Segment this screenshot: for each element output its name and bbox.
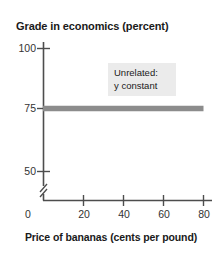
x-tick-label-20: 20 xyxy=(69,208,99,220)
y-tick-label-100: 100 xyxy=(8,42,36,54)
annotation-line-2: y constant xyxy=(114,79,171,92)
annotation-line-1: Unrelated: xyxy=(114,66,171,79)
x-tick-label-0: 0 xyxy=(13,208,43,220)
annotation-callout: Unrelated: y constant xyxy=(108,63,176,96)
y-tick-label-50: 50 xyxy=(8,165,36,177)
x-axis-title: Price of bananas (cents per pound) xyxy=(0,231,222,243)
y-tick-label-75: 75 xyxy=(8,102,36,114)
x-tick-label-80: 80 xyxy=(189,208,219,220)
x-tick-label-40: 40 xyxy=(109,208,139,220)
x-tick-label-60: 60 xyxy=(149,208,179,220)
chart-figure: Grade in economics (percent) 100 75 50 0… xyxy=(0,0,222,257)
